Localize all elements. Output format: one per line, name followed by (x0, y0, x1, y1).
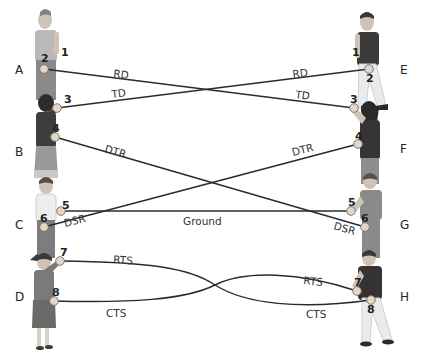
left-pin-7-number: 7 (60, 246, 68, 259)
right-pin-3-number: 3 (350, 93, 358, 106)
left-pin-2-connector (40, 65, 49, 74)
row-letter-e: E (400, 63, 408, 77)
signal-label-dtr: DTR (103, 142, 127, 160)
row-letter-f: F (400, 142, 407, 156)
right-pin-2-number: 2 (366, 72, 374, 85)
left-pin-5-number: 5 (62, 199, 70, 212)
signal-label-dsr: DSR (332, 219, 357, 237)
signal-label-dtr: DTR (291, 141, 315, 158)
wire-rts (60, 261, 371, 305)
signal-label-rts: RTS (113, 253, 134, 266)
right-pin-6-number: 6 (361, 212, 369, 225)
wire-td (57, 69, 369, 108)
left-pin-6-number: 6 (40, 212, 48, 225)
signal-label-dsr: DSR (63, 212, 87, 229)
signal-label-rd: RD (113, 67, 130, 81)
signal-label-td: TD (294, 88, 311, 102)
left-pin-4-number: 4 (52, 122, 60, 135)
row-letter-b: B (15, 145, 23, 159)
right-pin-4-number: 4 (355, 130, 363, 143)
row-letter-a: A (15, 63, 24, 77)
left-pin-3-number: 3 (64, 93, 72, 106)
signal-label-cts: CTS (106, 307, 127, 319)
row-letter-d: D (15, 290, 24, 304)
row-letter-g: G (400, 218, 409, 232)
signal-label-cts: CTS (306, 308, 327, 320)
person-e (355, 12, 388, 110)
row-letter-h: H (400, 290, 409, 304)
left-pin-8-number: 8 (52, 286, 60, 299)
pins (40, 65, 376, 306)
left-pin-3-connector (53, 104, 62, 113)
left-pin-2-number: 2 (41, 52, 49, 65)
null-modem-diagram: 1234567812345678 RDTDRDTDDTRDTRDSRDSRGro… (0, 0, 421, 363)
right-pin-8-number: 8 (367, 303, 375, 316)
wire-dtr (55, 137, 365, 227)
signal-label-rd: RD (292, 66, 309, 80)
signal-label-ground: Ground (183, 215, 222, 227)
right-pin-1-number: 1 (352, 46, 360, 59)
right-pin-5-number: 5 (348, 196, 356, 209)
right-pin-7-number: 7 (354, 276, 362, 289)
wires (44, 69, 371, 305)
signal-label-td: TD (110, 86, 127, 100)
row-letter-c: C (15, 218, 23, 232)
left-pin-1-number: 1 (61, 46, 69, 59)
signal-label-rts: RTS (303, 274, 324, 288)
